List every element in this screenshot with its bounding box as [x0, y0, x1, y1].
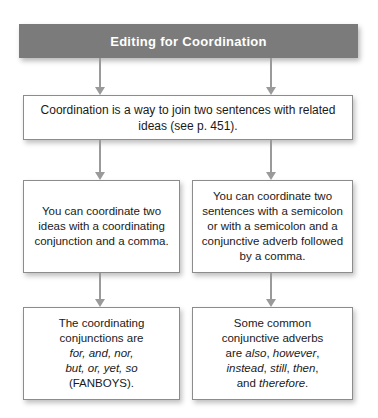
arrow-head — [95, 172, 105, 180]
connector-arrow-intro-left — [95, 140, 106, 180]
connector-arrow-intro-right — [266, 140, 277, 180]
arrow-shaft — [99, 273, 101, 299]
semicolon-box: You can coordinate two sentences with a … — [192, 180, 353, 273]
conjunctive-adverbs-box: Some commonconjunctive adverbsare also, … — [192, 307, 353, 400]
connector-arrow-middle-left — [95, 273, 106, 307]
fanboys-box-text: The coordinatingconjunctions arefor, and… — [53, 316, 151, 391]
coordination-flowchart: Editing for Coordination Coordination is… — [0, 0, 378, 418]
connector-arrow-middle-right — [266, 273, 277, 307]
arrow-head — [95, 299, 105, 307]
conjunctive-adverbs-box-text: Some commonconjunctive adverbsare also, … — [216, 316, 330, 391]
semicolon-box-text: You can coordinate two sentences with a … — [193, 189, 352, 264]
connector-arrow-banner-right — [266, 58, 277, 95]
coordinating-conjunction-box: You can coordinate two ideas with a coor… — [23, 180, 180, 273]
arrow-shaft — [270, 273, 272, 299]
arrow-head — [95, 87, 105, 95]
arrow-shaft — [99, 58, 101, 87]
flowchart-title-text: Editing for Coordination — [110, 34, 267, 49]
flowchart-title-banner: Editing for Coordination — [19, 24, 358, 58]
arrow-head — [266, 299, 276, 307]
arrow-shaft — [99, 140, 101, 172]
arrow-head — [266, 172, 276, 180]
connector-arrow-banner-left — [95, 58, 106, 95]
intro-box-text: Coordination is a way to join two senten… — [24, 102, 352, 134]
intro-box: Coordination is a way to join two senten… — [23, 95, 353, 140]
fanboys-box: The coordinatingconjunctions arefor, and… — [23, 307, 180, 400]
coordinating-conjunction-box-text: You can coordinate two ideas with a coor… — [24, 204, 179, 249]
arrow-shaft — [270, 58, 272, 87]
arrow-shaft — [270, 140, 272, 172]
arrow-head — [266, 87, 276, 95]
